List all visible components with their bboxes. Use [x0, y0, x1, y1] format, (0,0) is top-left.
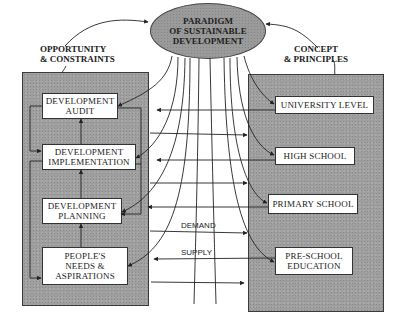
opportunity-to-paradigm-arrow	[65, 20, 148, 46]
connector-lines	[0, 0, 404, 324]
concept-to-paradigm-arrow	[266, 24, 318, 48]
